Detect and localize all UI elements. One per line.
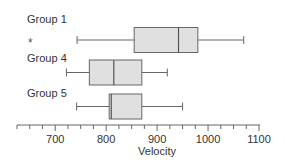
tick-label-800: 800: [97, 133, 115, 145]
box-group-4: [66, 60, 167, 85]
iqr-box: [109, 94, 142, 119]
iqr-box: [89, 60, 141, 85]
tick-label-700: 700: [46, 133, 64, 145]
x-axis-title: Velocity: [138, 145, 176, 157]
group-5-label: Group 5: [27, 87, 67, 99]
iqr-box: [134, 28, 198, 53]
tick-label-1100: 1100: [247, 133, 271, 145]
box-group-1: [77, 28, 244, 53]
outlier-star-marker: *: [28, 36, 33, 50]
box-group-5: [77, 94, 183, 119]
group-1-label: Group 1: [27, 13, 67, 25]
x-axis-tick-labels: 70080090010001100: [46, 133, 271, 145]
group-4-label: Group 4: [27, 52, 67, 64]
x-axis: 70080090010001100 Velocity: [17, 125, 271, 157]
box-plot-chart: Group 1 * Group 4 Group 5 70080090010001…: [0, 0, 285, 160]
tick-label-900: 900: [148, 133, 166, 145]
x-axis-ticks: [17, 125, 259, 131]
boxes-layer: [66, 28, 243, 120]
tick-label-1000: 1000: [196, 133, 220, 145]
